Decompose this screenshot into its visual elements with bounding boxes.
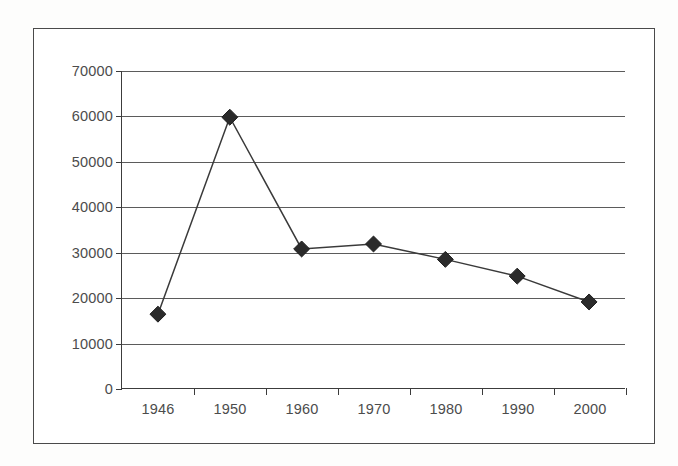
- data-point-2000: [581, 294, 597, 310]
- x-axis-label-2000: 2000: [573, 401, 606, 417]
- data-point-1990: [509, 268, 525, 284]
- plot-area: 010000200003000040000500006000070000 194…: [121, 71, 625, 389]
- x-axis-label-1960: 1960: [285, 401, 318, 417]
- x-axis-label-1950: 1950: [213, 401, 246, 417]
- x-axis-tick-1970: [410, 388, 411, 395]
- data-point-1960: [294, 241, 310, 257]
- y-axis-tick-0: [116, 389, 122, 390]
- y-axis-label-30000: 30000: [72, 245, 113, 261]
- chart-frame: 010000200003000040000500006000070000 194…: [33, 28, 655, 444]
- y-axis-label-60000: 60000: [72, 108, 113, 124]
- y-axis-label-20000: 20000: [72, 290, 113, 306]
- series-marker-group: [150, 109, 597, 322]
- x-axis-label-1946: 1946: [141, 401, 174, 417]
- x-axis-tick-1960: [338, 388, 339, 395]
- x-axis-tick-1946: [194, 388, 195, 395]
- y-axis-label-10000: 10000: [72, 336, 113, 352]
- y-axis-label-70000: 70000: [72, 63, 113, 79]
- data-point-1970: [366, 236, 382, 252]
- data-series-layer: [122, 71, 625, 388]
- x-axis-label-1970: 1970: [357, 401, 390, 417]
- x-axis-label-1980: 1980: [429, 401, 462, 417]
- y-axis-label-40000: 40000: [72, 199, 113, 215]
- x-axis-tick-2000: [626, 388, 627, 395]
- x-axis-tick-1990: [554, 388, 555, 395]
- x-axis-label-1990: 1990: [501, 401, 534, 417]
- x-axis-tick-1980: [482, 388, 483, 395]
- y-axis-label-50000: 50000: [72, 154, 113, 170]
- data-point-1980: [437, 251, 453, 267]
- data-point-1950: [222, 109, 238, 125]
- y-axis-label-0: 0: [105, 381, 113, 397]
- x-axis-tick-1950: [266, 388, 267, 395]
- data-point-1946: [150, 306, 166, 322]
- series-line: [158, 117, 589, 314]
- figure-root: 010000200003000040000500006000070000 194…: [0, 0, 678, 466]
